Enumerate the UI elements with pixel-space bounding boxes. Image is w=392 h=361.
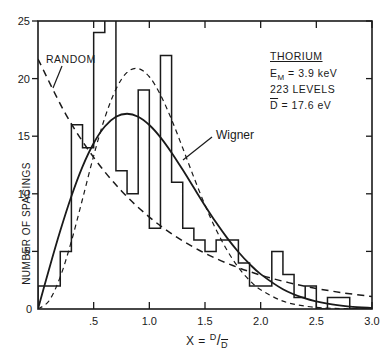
x-axis-denominator: D	[221, 340, 228, 350]
x-tick-label: 2.0	[253, 315, 268, 327]
y-axis-title: NUMBER OF SPACINGS	[21, 154, 32, 294]
em-symbol: E	[270, 67, 278, 79]
em-value: = 3.9 keV	[285, 67, 338, 79]
wigner-label-pointer	[183, 137, 212, 160]
x-tick-label: 1.0	[142, 315, 157, 327]
y-tick-label: 20	[18, 73, 30, 85]
x-tick-label: .5	[89, 315, 98, 327]
em-label: EM = 3.9 keV	[270, 67, 337, 82]
element-label: THORIUM	[270, 50, 323, 62]
levels-label: 223 LEVELS	[270, 83, 335, 95]
x-tick-label: 3.0	[364, 315, 379, 327]
random-label-pointer	[53, 66, 62, 88]
dbar-symbol: D	[270, 99, 278, 111]
dbar-label: D = 17.6 eV	[270, 99, 331, 111]
x-axis-title: X = D/D	[186, 332, 228, 350]
em-subscript: M	[278, 73, 285, 82]
wigner-curve-label: Wigner	[216, 128, 254, 142]
dbar-value: = 17.6 eV	[278, 99, 331, 111]
x-tick-label: 1.5	[197, 315, 212, 327]
y-tick-label: 15	[18, 130, 30, 142]
x-tick-label: 2.5	[309, 315, 324, 327]
x-axis-numerator: D	[210, 332, 217, 342]
y-tick-label: 25	[18, 15, 30, 27]
origin-label: 0	[26, 303, 32, 315]
random-curve-label: RANDOM	[46, 53, 96, 65]
x-axis-prefix: X =	[186, 334, 210, 348]
